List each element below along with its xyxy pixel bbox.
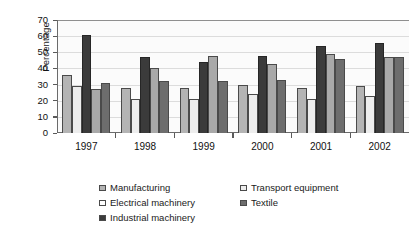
legend-swatch-icon [99,215,106,222]
x-axis-tick [350,133,409,139]
y-axis-tick-label: 50 [37,46,48,58]
legend-swatch-icon [99,185,106,192]
bar [131,99,141,133]
y-axis-tick-label: 60 [37,30,48,42]
x-axis-tick-label: 2002 [350,140,409,154]
bar [218,81,228,133]
y-axis-tick: 60 [0,30,57,42]
x-axis-tick [174,133,233,139]
bar [384,57,394,133]
bar-group [292,20,351,133]
bar [394,57,404,133]
legend-item-label: Textile [251,197,278,209]
bar [189,99,199,133]
bar [82,35,92,133]
legend-item: Transport equipment [240,181,338,195]
bar [101,83,111,133]
bar [267,64,277,133]
bar-groups [57,20,409,133]
bar [140,57,150,133]
bar [258,56,268,133]
bar [277,80,287,133]
bar-chart: Percentage 706050403020100 1997199819992… [0,0,420,232]
bar-group [57,20,116,133]
bar [356,86,366,133]
legend-swatch-icon [240,200,247,207]
bar [326,54,336,133]
y-axis-tick: 40 [0,62,57,74]
bar [307,99,317,133]
bar-group [116,20,175,133]
x-axis-ticks [57,133,409,139]
x-axis-tick [292,133,351,139]
bar [62,75,72,133]
bar-group [233,20,292,133]
y-axis-tick: 0 [0,127,57,139]
y-axis-tick-label: 30 [37,79,48,91]
legend-swatch-icon [240,185,247,192]
legend-item: Manufacturing [99,181,170,195]
legend-item-label: Industrial machinery [110,212,195,224]
legend-item-label: Electrical machinery [110,197,195,209]
x-axis-tick [233,133,292,139]
bar [199,62,209,133]
x-axis-tick [116,133,175,139]
bar [375,43,385,133]
legend-item-label: Transport equipment [251,182,338,194]
bar [316,46,326,133]
x-axis-tick-label: 1997 [57,140,116,154]
y-axis-tick-label: 40 [37,62,48,74]
bar-group [350,20,409,133]
y-axis-tick: 10 [0,111,57,123]
bar [297,88,307,133]
legend: ManufacturingTransport equipmentElectric… [99,181,399,227]
bar [121,88,131,133]
y-axis-tick: 20 [0,95,57,107]
y-axis-tick-label: 0 [43,127,48,139]
legend-item: Textile [240,196,278,210]
x-axis-tick-label: 2000 [233,140,292,154]
legend-item: Industrial machinery [99,211,195,225]
legend-swatch-icon [99,200,106,207]
y-axis-tick-label: 10 [37,111,48,123]
x-axis-tick [57,133,116,139]
y-axis-tick: 70 [0,14,57,26]
x-axis-tick-label: 1998 [116,140,175,154]
bar [365,96,375,133]
y-axis-tick: 50 [0,46,57,58]
x-axis-tick-label: 1999 [174,140,233,154]
y-axis-tick: 30 [0,79,57,91]
bar [180,88,190,133]
bar [159,81,169,133]
legend-item-label: Manufacturing [110,182,170,194]
y-axis-tick-label: 20 [37,95,48,107]
x-axis-tick-label: 2001 [292,140,351,154]
x-axis-labels: 199719981999200020012002 [57,140,409,154]
legend-item: Electrical machinery [99,196,195,210]
y-axis-tick-label: 70 [37,14,48,26]
bar [150,68,160,133]
bar [72,86,82,133]
bar [248,94,258,133]
bar [238,85,248,133]
bar [91,89,101,133]
bar [208,56,218,133]
bar-group [174,20,233,133]
bar [335,59,345,133]
